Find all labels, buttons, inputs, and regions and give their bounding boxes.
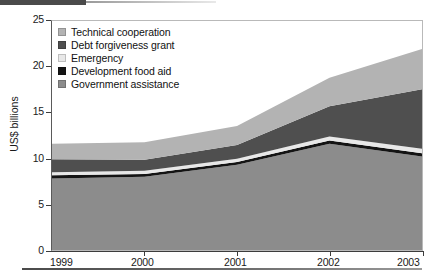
y-axis-tick-label: 0 — [14, 244, 44, 256]
legend-item-label: Technical cooperation — [71, 26, 170, 38]
y-axis-tick-label: 25 — [14, 13, 44, 25]
y-axis-tick-mark — [46, 20, 51, 21]
chart-legend: Technical cooperationDebt forgiveness gr… — [58, 26, 179, 90]
x-axis-tick-label: 1999 — [50, 256, 73, 268]
x-axis-tick-label: 2000 — [131, 256, 154, 268]
y-axis-title: US$ billions — [8, 69, 20, 179]
figure-root: 0510152025 US$ billions 1999200020012002… — [0, 0, 444, 277]
y-axis-tick-mark — [46, 66, 51, 67]
legend-swatch-icon — [58, 28, 66, 36]
y-axis-tick-mark — [46, 205, 51, 206]
y-axis-tick-mark — [46, 251, 51, 252]
y-axis-tick-label: 5 — [14, 198, 44, 210]
x-axis-tick-label: 2001 — [224, 256, 247, 268]
y-axis-tick-mark — [46, 112, 51, 113]
legend-swatch-icon — [58, 41, 66, 49]
legend-item: Emergency — [58, 52, 179, 64]
legend-swatch-icon — [58, 80, 66, 88]
legend-item: Government assistance — [58, 78, 179, 90]
legend-item: Debt forgiveness grant — [58, 39, 179, 51]
bottom-rule-decoration — [22, 268, 422, 270]
legend-item-label: Development food aid — [71, 65, 171, 77]
x-axis-tick-label: 2002 — [317, 256, 340, 268]
legend-item-label: Government assistance — [71, 78, 179, 90]
x-axis-tick-mark — [423, 251, 424, 256]
top-rule-fade — [86, 1, 216, 3]
legend-item: Technical cooperation — [58, 26, 179, 38]
x-axis-tick-label: 2003 — [397, 256, 420, 268]
legend-item-label: Emergency — [71, 52, 123, 64]
legend-item-label: Debt forgiveness grant — [71, 39, 174, 51]
legend-item: Development food aid — [58, 65, 179, 77]
legend-swatch-icon — [58, 54, 66, 62]
y-axis-tick-mark — [46, 159, 51, 160]
legend-swatch-icon — [58, 67, 66, 75]
